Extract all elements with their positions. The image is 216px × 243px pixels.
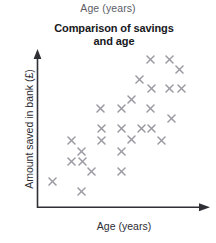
scatter-chart-figure: Age (years) Comparison of savingsand age… <box>0 0 216 243</box>
plot-area: Amount saved in bank (£) Age (years) <box>0 0 216 243</box>
arrow-right-icon <box>199 203 210 211</box>
x-axis-label: Age (years) <box>37 220 211 232</box>
y-axis-label: Amount saved in bank (£) <box>23 54 35 204</box>
